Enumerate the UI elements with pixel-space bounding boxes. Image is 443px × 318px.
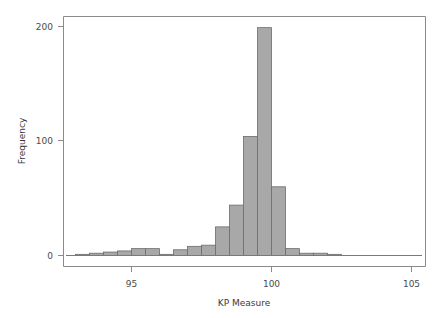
histogram-bar — [188, 246, 202, 255]
histogram-bar — [272, 187, 286, 256]
histogram-bar — [118, 251, 132, 256]
y-tick-label-100: 100 — [36, 136, 53, 146]
x-tick-label-100: 100 — [263, 279, 280, 289]
y-tick-label-200: 200 — [36, 22, 53, 32]
x-tick-label-95: 95 — [126, 279, 137, 289]
histogram-bar — [146, 249, 160, 256]
histogram-bar — [202, 245, 216, 255]
histogram-bar — [258, 28, 272, 256]
y-tick-label-0: 0 — [47, 251, 53, 261]
histogram-bar — [230, 205, 244, 255]
x-axis-title: KP Measure — [218, 298, 271, 308]
histogram-bar — [216, 227, 230, 256]
histogram-chart: 200 100 0 Frequency 95 100 105 KP Measur… — [0, 0, 443, 318]
histogram-bar — [286, 249, 300, 256]
histogram-bar — [104, 252, 118, 255]
chart-background — [0, 0, 443, 318]
histogram-bar — [244, 136, 258, 255]
histogram-bar — [174, 250, 188, 256]
x-axis-title-text: KP Measure — [218, 298, 271, 308]
histogram-bar — [132, 249, 146, 256]
y-axis-title: Frequency — [17, 117, 27, 164]
chart-canvas: 200 100 0 Frequency 95 100 105 KP Measur… — [0, 0, 443, 318]
y-axis-title-text: Frequency — [17, 117, 27, 164]
x-tick-label-105: 105 — [403, 279, 420, 289]
